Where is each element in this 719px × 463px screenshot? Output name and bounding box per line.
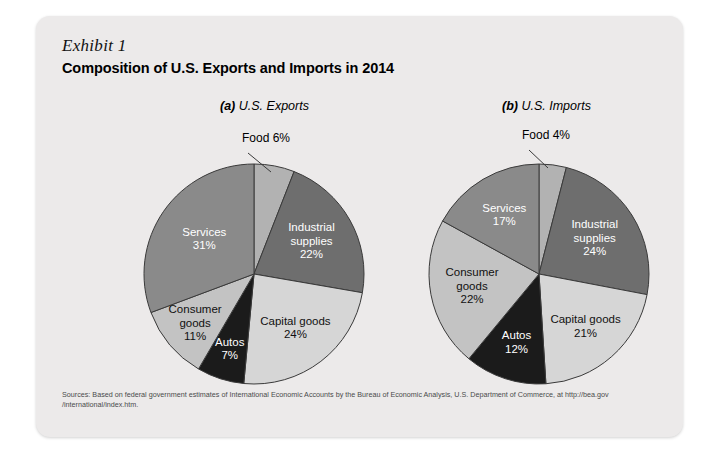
exhibit-label: Exhibit 1 xyxy=(62,36,127,56)
pie-slices-exports xyxy=(144,164,364,384)
exhibit-card: Exhibit 1 Composition of U.S. Exports an… xyxy=(36,16,683,437)
slice-callout-food: Food 4% xyxy=(522,128,570,142)
panel-tag-b: (b) xyxy=(502,99,518,113)
page-title: Composition of U.S. Exports and Imports … xyxy=(62,60,394,76)
panel-subtitle-imports: (b) U.S. Imports xyxy=(502,99,591,113)
slice-callout-food: Food 6% xyxy=(242,131,290,145)
pie-chart-imports: Food 4% Industrialsupplies24% Capital go… xyxy=(381,126,681,416)
pie-chart-exports-svg xyxy=(96,126,396,416)
panel-tag-a: (a) xyxy=(220,99,235,113)
panel-name-b: U.S. Imports xyxy=(521,99,590,113)
pie-chart-imports-svg xyxy=(381,126,681,416)
source-note: Sources: Based on federal government est… xyxy=(62,390,662,410)
pie-slices-imports xyxy=(429,164,649,384)
source-line-2: /international/index.htm. xyxy=(62,400,138,409)
panel-name-a: U.S. Exports xyxy=(239,99,309,113)
panel-subtitle-exports: (a) U.S. Exports xyxy=(220,99,309,113)
source-line-1: Sources: Based on federal government est… xyxy=(62,390,609,399)
pie-slice-capital-goods xyxy=(244,274,363,384)
pie-chart-exports: Food 6% Industrialsupplies22% Capital go… xyxy=(96,126,396,416)
